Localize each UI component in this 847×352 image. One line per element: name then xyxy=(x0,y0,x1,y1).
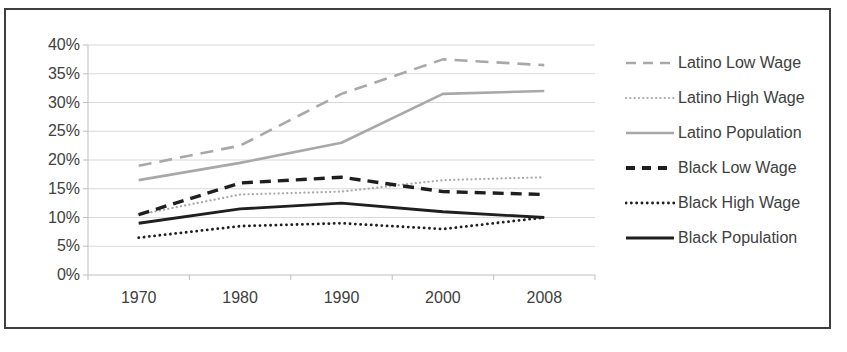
legend-marker-solid xyxy=(625,128,675,138)
legend-item-latino-population: Latino Population xyxy=(625,115,835,150)
y-axis-tick-label: 30% xyxy=(30,94,80,112)
series-line-black-low-wage xyxy=(139,177,545,214)
legend-item-latino-high-wage: Latino High Wage xyxy=(625,80,835,115)
y-axis-tick-label: 35% xyxy=(30,65,80,83)
series-line-latino-population xyxy=(139,91,545,180)
series-line-black-population xyxy=(139,203,545,223)
legend-marker-dotted xyxy=(625,198,675,208)
legend-label: Black High Wage xyxy=(678,194,800,212)
y-axis-tick-label: 20% xyxy=(30,151,80,169)
legend-item-black-population: Black Population xyxy=(625,220,835,255)
y-axis-tick-label: 5% xyxy=(30,237,80,255)
legend-marker-dotted xyxy=(625,93,675,103)
chart-legend: Latino Low WageLatino High WageLatino Po… xyxy=(625,45,835,255)
x-axis-tick-label: 2008 xyxy=(509,289,579,307)
legend-label: Latino Population xyxy=(678,124,802,142)
legend-label: Latino Low Wage xyxy=(678,54,801,72)
legend-label: Black Low Wage xyxy=(678,159,797,177)
x-axis-tick-label: 1980 xyxy=(205,289,275,307)
y-axis-tick-label: 10% xyxy=(30,209,80,227)
legend-label: Black Population xyxy=(678,229,797,247)
x-axis-tick-label: 1990 xyxy=(307,289,377,307)
series-line-latino-low-wage xyxy=(139,59,545,165)
x-axis-tick-label: 1970 xyxy=(104,289,174,307)
legend-item-black-low-wage: Black Low Wage xyxy=(625,150,835,185)
legend-marker-dashed xyxy=(625,163,675,173)
series-line-black-high-wage xyxy=(139,218,545,238)
legend-label: Latino High Wage xyxy=(678,89,805,107)
y-axis-tick-label: 25% xyxy=(30,122,80,140)
x-axis-tick-label: 2000 xyxy=(408,289,478,307)
legend-marker-dashed xyxy=(625,58,675,68)
y-axis-tick-label: 40% xyxy=(30,36,80,54)
legend-marker-solid xyxy=(625,233,675,243)
legend-item-black-high-wage: Black High Wage xyxy=(625,185,835,220)
y-axis-tick-label: 0% xyxy=(30,266,80,284)
legend-item-latino-low-wage: Latino Low Wage xyxy=(625,45,835,80)
y-axis-tick-label: 15% xyxy=(30,180,80,198)
